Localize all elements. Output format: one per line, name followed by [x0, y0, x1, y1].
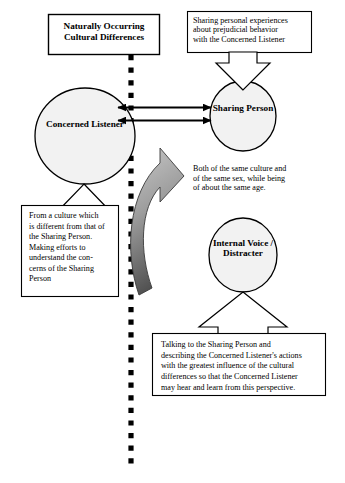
internal-voice-node: Internal Voice / Distracter — [209, 218, 277, 292]
left-box-text: From a culture which is different from t… — [29, 211, 115, 285]
diagram-canvas: Naturally Occurring Cultural Differences… — [0, 0, 345, 483]
block-arrow-to-internal-voice — [199, 292, 287, 340]
bottom-box-text: Talking to the Sharing Person and descri… — [161, 340, 321, 393]
concerned-listener-node: Concerned Listener — [35, 88, 135, 184]
concerned-listener-label: Concerned Listener — [35, 119, 135, 129]
top-right-box-text: Sharing personal experiences about preju… — [193, 16, 309, 44]
sharing-person-label: Sharing Person — [210, 103, 276, 113]
title-box-text: Naturally Occurring Cultural Differences — [50, 21, 158, 42]
internal-voice-label: Internal Voice / Distracter — [209, 238, 277, 258]
middle-note-text: Both of the same culture and of the same… — [193, 164, 333, 193]
sharing-person-node: Sharing Person — [210, 81, 276, 151]
curved-block-arrow-up — [131, 148, 184, 295]
